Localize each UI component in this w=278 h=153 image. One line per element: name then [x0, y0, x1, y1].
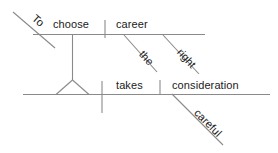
- word-career: career: [116, 19, 148, 30]
- sentence-diagram: To choose career the right takes conside…: [0, 0, 278, 153]
- word-choose: choose: [53, 19, 89, 30]
- pedestal-leg-right: [73, 80, 90, 95]
- word-takes: takes: [116, 80, 143, 91]
- pedestal-leg-left: [56, 80, 73, 95]
- word-consideration: consideration: [172, 80, 239, 91]
